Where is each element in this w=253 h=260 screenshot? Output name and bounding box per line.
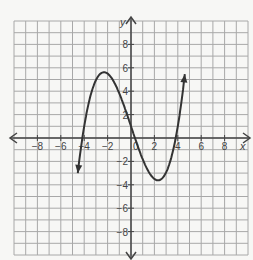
axes <box>10 17 250 259</box>
svg-text:−6: −6 <box>117 203 129 214</box>
y-axis-label: y <box>119 16 127 28</box>
svg-text:−8: −8 <box>32 141 44 152</box>
svg-text:−4: −4 <box>117 180 129 191</box>
svg-text:6: 6 <box>122 63 128 74</box>
svg-text:8: 8 <box>122 39 128 50</box>
svg-text:−2: −2 <box>102 141 114 152</box>
coordinate-plane: −8−6−4−2024688642−2−4−6−8 x y <box>0 0 253 260</box>
svg-text:2: 2 <box>152 141 158 152</box>
svg-text:8: 8 <box>222 141 228 152</box>
svg-text:−2: −2 <box>117 156 129 167</box>
svg-text:−8: −8 <box>117 227 129 238</box>
x-axis-label: x <box>239 140 246 152</box>
svg-text:−6: −6 <box>55 141 67 152</box>
svg-text:4: 4 <box>122 86 128 97</box>
svg-text:6: 6 <box>198 141 204 152</box>
svg-text:4: 4 <box>175 141 181 152</box>
